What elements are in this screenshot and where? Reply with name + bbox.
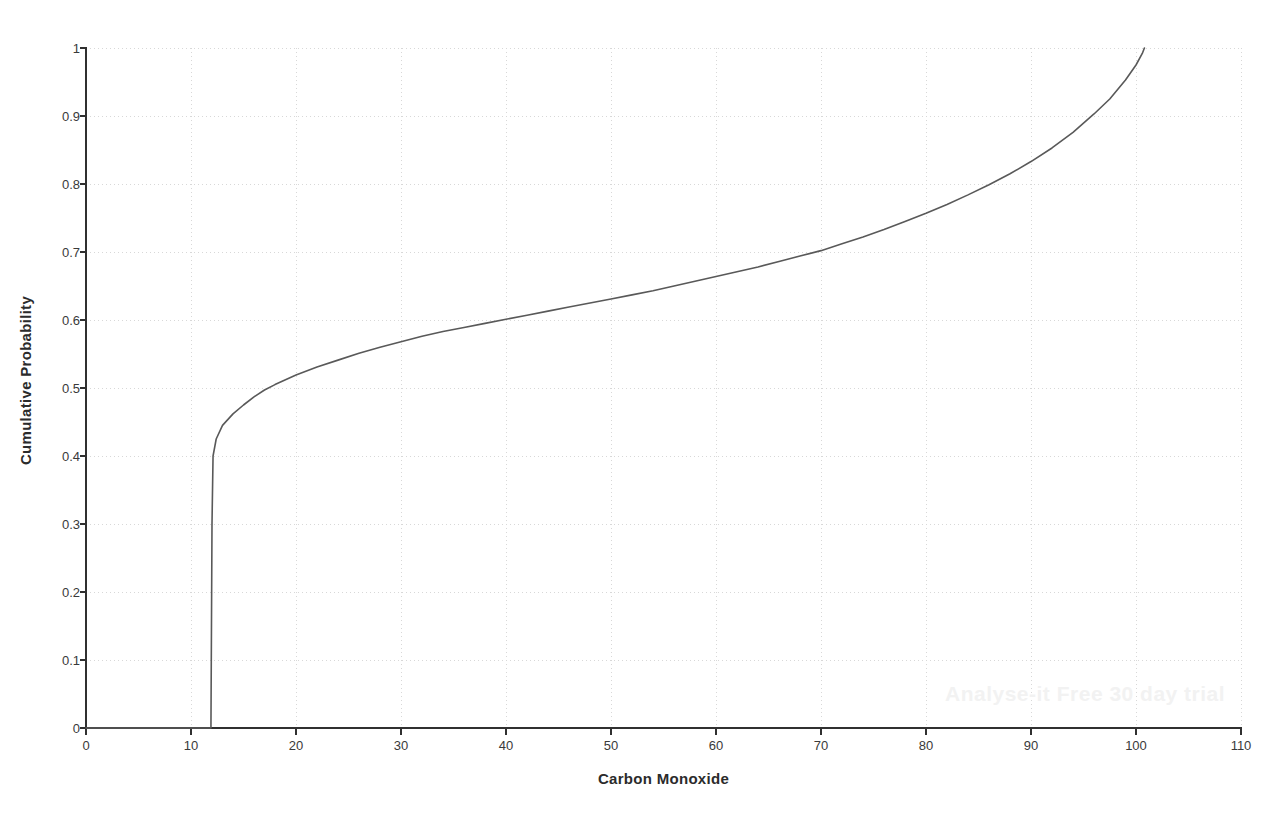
gridlines bbox=[86, 48, 1241, 728]
data-curve bbox=[86, 48, 1144, 728]
tick-marks bbox=[80, 48, 1241, 735]
axis-lines bbox=[86, 48, 1241, 728]
cumulative-probability-chart: Cumulative Probability 00.10.20.30.40.50… bbox=[0, 0, 1283, 816]
plot-area bbox=[0, 0, 1283, 816]
